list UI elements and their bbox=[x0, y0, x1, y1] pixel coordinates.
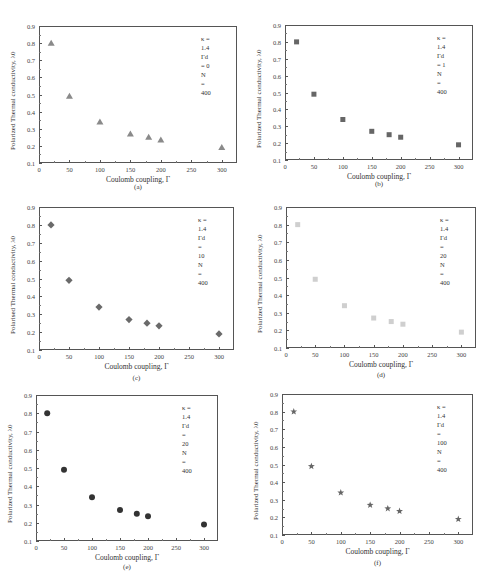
data-point-marker bbox=[290, 408, 297, 415]
data-point-marker bbox=[308, 463, 315, 470]
data-point-marker bbox=[455, 516, 462, 523]
data-point-marker bbox=[337, 489, 344, 496]
data-point-marker bbox=[367, 501, 374, 508]
data-points-layer bbox=[0, 0, 490, 587]
data-point-marker bbox=[384, 505, 391, 512]
data-point-marker bbox=[396, 508, 403, 515]
